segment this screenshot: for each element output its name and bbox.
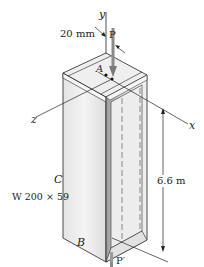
left-face: [63, 73, 106, 262]
load-p-label: P: [109, 29, 116, 40]
load-p-prime-shaft: [110, 262, 113, 267]
point-b-label: B: [76, 236, 85, 249]
point-c-label: C: [54, 173, 63, 186]
eccentricity-label: 20 mm: [60, 28, 95, 39]
back-flange-inner: [111, 85, 142, 248]
column-diagram: y P 20 mm A z x C 6.6 m W 200 × 59 B P′: [0, 0, 204, 267]
load-p-prime-label: P′: [116, 255, 126, 266]
z-axis-label: z: [30, 113, 37, 126]
point-a-dot: [104, 73, 107, 76]
y-axis-label: y: [98, 8, 106, 21]
dim-arrow-bottom: [161, 246, 165, 252]
point-a-label: A: [95, 63, 103, 74]
load-point-dot: [110, 77, 113, 80]
x-axis-label: x: [189, 119, 196, 132]
load-p-prime-shaft-upper: [110, 252, 113, 262]
section-label: W 200 × 59: [12, 191, 69, 202]
length-label: 6.6 m: [157, 175, 186, 186]
